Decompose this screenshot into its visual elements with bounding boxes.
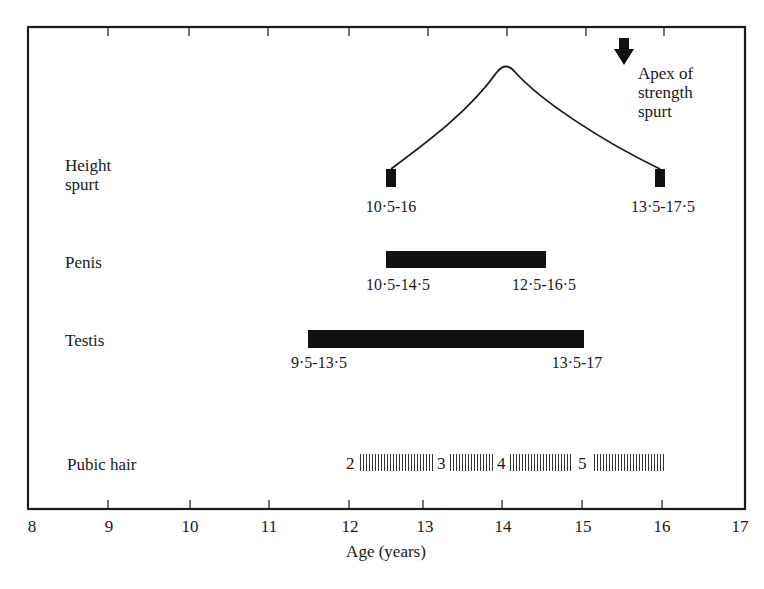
x-tick-8: 8 bbox=[28, 517, 37, 536]
x-tick-16: 16 bbox=[654, 517, 671, 536]
row-label-spurt: spurt bbox=[65, 175, 99, 194]
testis-end-range: 13·5-17 bbox=[552, 354, 603, 371]
x-tick-labels: 8 9 10 11 12 13 14 15 16 17 bbox=[28, 517, 749, 536]
height-start-range: 10·5-16 bbox=[366, 198, 417, 215]
puberty-timeline-chart: 8 9 10 11 12 13 14 15 16 17 Age (years) … bbox=[0, 0, 764, 589]
row-label-pubic: Pubic hair bbox=[67, 455, 137, 474]
pubic-stage-4-label: 4 bbox=[497, 454, 506, 473]
down-arrow-icon bbox=[614, 38, 634, 65]
x-tick-17: 17 bbox=[732, 517, 750, 536]
row-penis: Penis 10·5-14·5 12·5-16·5 bbox=[65, 251, 576, 293]
x-tick-12: 12 bbox=[342, 517, 359, 536]
x-tick-9: 9 bbox=[105, 517, 114, 536]
x-tick-14: 14 bbox=[495, 517, 513, 536]
top-ticks bbox=[108, 27, 664, 36]
row-label-testis: Testis bbox=[65, 331, 104, 350]
height-spurt-curve bbox=[391, 67, 660, 170]
penis-bar bbox=[386, 251, 546, 268]
apex-line-3: spurt bbox=[638, 102, 672, 121]
pubic-stage-3-hatch bbox=[450, 454, 495, 471]
pubic-stage-2-hatch bbox=[360, 454, 434, 471]
pubic-stage-2-label: 2 bbox=[346, 454, 355, 473]
x-tick-13: 13 bbox=[417, 517, 434, 536]
x-axis-label: Age (years) bbox=[346, 542, 426, 561]
penis-end-range: 12·5-16·5 bbox=[512, 276, 576, 293]
x-tick-10: 10 bbox=[182, 517, 199, 536]
testis-start-range: 9·5-13·5 bbox=[291, 354, 347, 371]
pubic-stage-4-hatch bbox=[510, 454, 573, 471]
testis-bar bbox=[308, 330, 584, 348]
apex-line-1: Apex of bbox=[638, 64, 694, 83]
row-height-spurt: Height spurt 10·5-16 13·5-17·5 bbox=[65, 67, 695, 216]
x-tick-11: 11 bbox=[261, 517, 277, 536]
pubic-stage-5-hatch bbox=[593, 454, 665, 471]
bottom-ticks bbox=[108, 500, 662, 509]
x-tick-15: 15 bbox=[575, 517, 592, 536]
penis-start-range: 10·5-14·5 bbox=[366, 276, 430, 293]
row-label-height: Height bbox=[65, 156, 112, 175]
row-pubic-hair: Pubic hair 2 3 4 5 bbox=[67, 454, 665, 474]
pubic-stage-5-label: 5 bbox=[578, 454, 587, 473]
pubic-stage-3-label: 3 bbox=[437, 454, 446, 473]
height-end-range: 13·5-17·5 bbox=[631, 198, 695, 215]
row-testis: Testis 9·5-13·5 13·5-17 bbox=[65, 330, 602, 371]
apex-line-2: strength bbox=[638, 83, 693, 102]
apex-annotation: Apex of strength spurt bbox=[638, 64, 694, 121]
height-start-marker bbox=[386, 169, 396, 187]
height-end-marker bbox=[655, 169, 665, 187]
row-label-penis: Penis bbox=[65, 253, 102, 272]
